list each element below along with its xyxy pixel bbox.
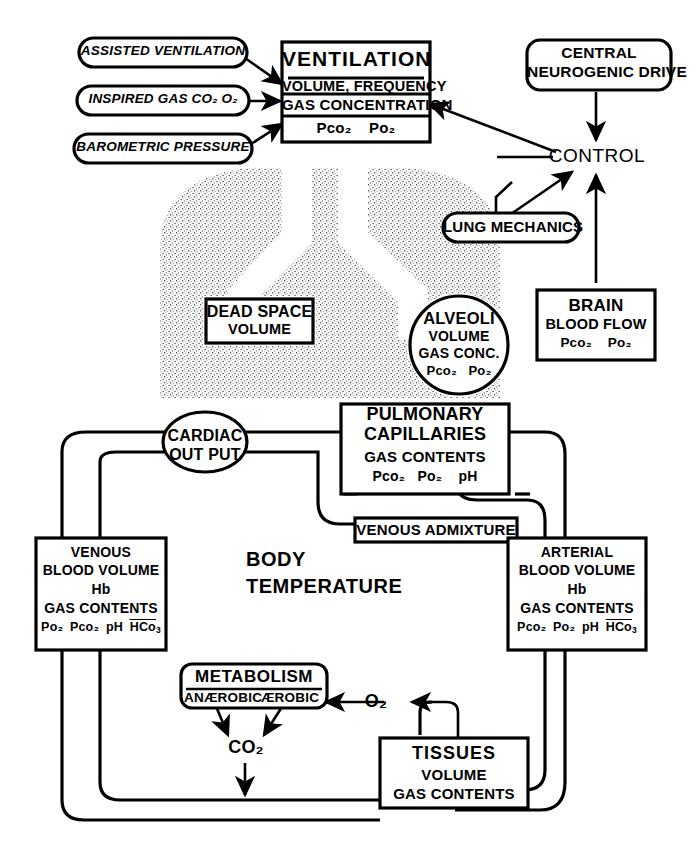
arterial-blood-line4: GAS CONTENTS <box>508 601 646 616</box>
venous-admixture-label: VENOUS ADMIXTURE <box>355 522 517 538</box>
alveoli-pressures: Pco₂ Po₂ <box>410 364 508 378</box>
pulmonary-capillaries-line2: CAPILLARIES <box>341 425 509 444</box>
metabolism-anaerobic: ANÆROBIC <box>184 691 254 706</box>
cardiac-output-line2: OUT PUT <box>163 446 247 463</box>
brain-line1: BRAIN <box>537 297 655 315</box>
pulmonary-capillaries-line3: GAS CONTENTS <box>341 449 509 465</box>
arterial-blood-line2: BLOOD VOLUME <box>508 563 646 578</box>
venous-blood-values: Po₂ Pco₂ pH HCo3 <box>36 621 166 635</box>
metabolism-title: METABOLISM <box>181 668 327 686</box>
tissues-line3: GAS CONTENTS <box>380 786 528 802</box>
central-drive-line2: NEUROGENIC DRIVE <box>527 64 671 81</box>
ventilation-po2: Po₂ <box>369 119 395 136</box>
pulmonary-capillaries-line1: PULMONARY <box>341 405 509 424</box>
venous-hco3-sub: 3 <box>156 625 161 635</box>
alveoli-line3: GAS CONC. <box>410 346 508 361</box>
body-temperature-line2: TEMPERATURE <box>246 576 456 598</box>
venous-blood-line1: VENOUS <box>36 545 166 560</box>
arterial-po2: Po₂ <box>553 620 575 634</box>
venous-blood-line4: GAS CONTENTS <box>36 601 166 616</box>
lung-mechanics-label[interactable]: LUNG MECHANICS <box>443 219 579 235</box>
ventilation-gas-concentration: GAS CONCENTRATION <box>282 97 430 113</box>
alveoli-po2: Po₂ <box>468 363 491 378</box>
dead-space-line2: VOLUME <box>206 322 313 338</box>
body-temperature-line1: BODY <box>246 549 446 571</box>
ventilation-title: VENTILATION <box>282 48 430 71</box>
brain-po2: Po₂ <box>608 335 632 350</box>
venous-hco3: HCo <box>130 620 156 634</box>
venous-blood-line2: BLOOD VOLUME <box>36 563 166 578</box>
brain-pressures: Pco₂ Po₂ <box>537 336 655 351</box>
venous-ph: pH <box>106 620 123 634</box>
brain-pco2: Pco₂ <box>560 335 592 350</box>
central-drive-line1: CENTRAL <box>527 45 671 62</box>
alveoli-line1: ALVEOLI <box>410 310 508 328</box>
tissues-line2: VOLUME <box>380 767 528 783</box>
ventilation-pco2: Pco₂ <box>317 119 352 136</box>
arterial-blood-line3: Hb <box>508 582 646 597</box>
arterial-blood-values: Pco₂ Po₂ pH HCo3 <box>508 621 646 635</box>
alveoli-pco2: Pco₂ <box>427 363 457 378</box>
arterial-ph: pH <box>582 620 599 634</box>
pulm-po2: Po₂ <box>417 468 442 484</box>
ventilation-volume-frequency: VOLUME, FREQUENCY <box>282 79 430 95</box>
venous-blood-line3: Hb <box>36 582 166 597</box>
o2-node: O₂ <box>358 692 394 711</box>
diagram-canvas: ASSISTED VENTILATION INSPIRED GAS CO₂ O₂… <box>0 0 698 865</box>
venous-pco2: Pco₂ <box>70 620 99 634</box>
label-barometric-pressure[interactable]: BAROMETRIC PRESSURE <box>74 140 252 155</box>
ventilation-pressures: Pco₂ Po₂ <box>282 120 430 136</box>
control-label: CONTROL <box>537 146 657 167</box>
cardiac-output-line1: CARDIAC <box>163 427 247 444</box>
pulm-pco2: Pco₂ <box>372 468 405 484</box>
pulm-ph: pH <box>459 468 478 484</box>
label-assisted-ventilation[interactable]: ASSISTED VENTILATION <box>79 44 247 59</box>
arterial-hco3-sub: 3 <box>632 625 637 635</box>
arterial-hco3: HCo <box>606 620 632 634</box>
metabolism-aerobic: ÆROBIC <box>256 691 324 706</box>
label-inspired-gas[interactable]: INSPIRED GAS CO₂ O₂ <box>77 92 249 107</box>
brain-line2: BLOOD FLOW <box>537 317 655 333</box>
arterial-blood-line1: ARTERIAL <box>508 545 646 560</box>
tissues-line1: TISSUES <box>380 744 528 763</box>
arterial-pco2: Pco₂ <box>517 620 546 634</box>
alveoli-line2: VOLUME <box>410 329 508 344</box>
pulmonary-capillaries-values: Pco₂ Po₂ pH <box>341 469 509 484</box>
venous-po2: Po₂ <box>41 620 63 634</box>
co2-node: CO₂ <box>215 738 277 757</box>
dead-space-line1: DEAD SPACE <box>206 303 313 320</box>
